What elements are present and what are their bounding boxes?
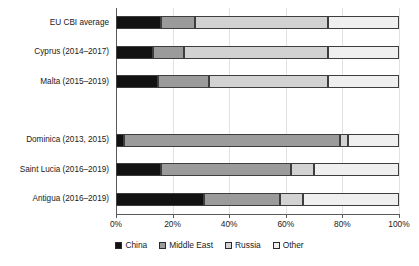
x-tick-mark bbox=[116, 214, 117, 218]
bar-segment-middle-east bbox=[124, 134, 339, 147]
x-tick-label: 80% bbox=[334, 219, 351, 229]
bar-row bbox=[116, 75, 399, 88]
bar-segment-russia bbox=[209, 75, 328, 88]
bar-segment-china bbox=[116, 46, 153, 59]
bar-segment-other bbox=[328, 46, 399, 59]
bar-segment-china bbox=[116, 75, 158, 88]
legend-swatch-icon bbox=[159, 242, 166, 249]
bar-segment-china bbox=[116, 163, 161, 176]
bar-segment-russia bbox=[195, 16, 328, 29]
bar-row bbox=[116, 134, 399, 147]
stacked-bar-chart: EU CBI averageCyprus (2014–2017)Malta (2… bbox=[0, 0, 419, 266]
gridline bbox=[399, 8, 400, 214]
category-label: Saint Lucia (2016–2019) bbox=[0, 165, 109, 175]
bar-segment-middle-east bbox=[158, 75, 209, 88]
x-tick-mark bbox=[286, 214, 287, 218]
x-tick-label: 0% bbox=[110, 219, 122, 229]
x-axis: 0%20%40%60%80%100% bbox=[116, 214, 399, 234]
bar-segment-russia bbox=[291, 163, 314, 176]
legend-item[interactable]: Other bbox=[273, 240, 304, 250]
bar-segment-other bbox=[348, 134, 399, 147]
legend-item[interactable]: Middle East bbox=[159, 240, 213, 250]
x-tick-mark bbox=[399, 214, 400, 218]
x-tick-label: 40% bbox=[221, 219, 238, 229]
legend-label: Russia bbox=[235, 240, 261, 250]
bar-row bbox=[116, 193, 399, 206]
gridline bbox=[342, 8, 343, 214]
legend-item[interactable]: China bbox=[115, 240, 147, 250]
bar-segment-middle-east bbox=[161, 163, 291, 176]
bar-segment-other bbox=[303, 193, 399, 206]
category-axis: EU CBI averageCyprus (2014–2017)Malta (2… bbox=[0, 0, 113, 218]
category-label: Antigua (2016–2019) bbox=[0, 194, 109, 204]
category-label: Cyprus (2014–2017) bbox=[0, 47, 109, 57]
x-tick-label: 20% bbox=[164, 219, 181, 229]
bar-row bbox=[116, 16, 399, 29]
legend-label: Middle East bbox=[169, 240, 213, 250]
gridline bbox=[173, 8, 174, 214]
bar-segment-middle-east bbox=[153, 46, 184, 59]
legend-swatch-icon bbox=[273, 242, 280, 249]
bar-segment-china bbox=[116, 134, 124, 147]
bar-row bbox=[116, 163, 399, 176]
y-axis-line bbox=[116, 8, 117, 214]
bar-segment-russia bbox=[184, 46, 328, 59]
x-tick-label: 100% bbox=[388, 219, 409, 229]
bar-segment-china bbox=[116, 193, 204, 206]
legend-item[interactable]: Russia bbox=[225, 240, 261, 250]
bar-segment-middle-east bbox=[204, 193, 280, 206]
gridline bbox=[229, 8, 230, 214]
x-tick-label: 60% bbox=[277, 219, 294, 229]
category-label: Malta (2015–2019) bbox=[0, 77, 109, 87]
plot-area bbox=[116, 8, 399, 214]
legend-label: Other bbox=[283, 240, 304, 250]
bar-segment-russia bbox=[280, 193, 303, 206]
legend-swatch-icon bbox=[115, 242, 122, 249]
x-tick-mark bbox=[173, 214, 174, 218]
bar-row bbox=[116, 46, 399, 59]
category-label: EU CBI average bbox=[0, 18, 109, 28]
bar-segment-russia bbox=[340, 134, 348, 147]
chart-legend: ChinaMiddle EastRussiaOther bbox=[0, 240, 419, 250]
x-tick-mark bbox=[229, 214, 230, 218]
category-label: Dominica (2013, 2015) bbox=[0, 135, 109, 145]
bar-segment-middle-east bbox=[161, 16, 195, 29]
bar-segment-other bbox=[314, 163, 399, 176]
legend-swatch-icon bbox=[225, 242, 232, 249]
bar-segment-china bbox=[116, 16, 161, 29]
x-tick-mark bbox=[342, 214, 343, 218]
bar-segment-other bbox=[328, 16, 399, 29]
legend-label: China bbox=[125, 240, 147, 250]
bar-segment-other bbox=[328, 75, 399, 88]
gridline bbox=[286, 8, 287, 214]
